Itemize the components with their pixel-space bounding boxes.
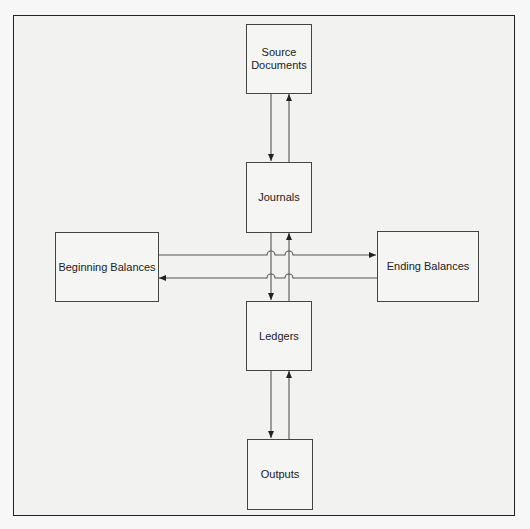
node-source-documents: Source Documents xyxy=(246,24,312,94)
node-label: Ledgers xyxy=(259,330,299,343)
diagram-canvas: Source Documents Journals Beginning Bala… xyxy=(0,0,530,529)
node-ledgers: Ledgers xyxy=(246,301,312,371)
node-label: Beginning Balances xyxy=(58,261,155,274)
node-label: Outputs xyxy=(261,468,300,481)
node-beginning-balances: Beginning Balances xyxy=(55,232,159,302)
node-ending-balances: Ending Balances xyxy=(377,231,479,302)
node-label: Source Documents xyxy=(251,46,307,72)
node-outputs: Outputs xyxy=(247,439,313,510)
node-label: Ending Balances xyxy=(387,260,470,273)
node-label: Journals xyxy=(258,191,300,204)
node-journals: Journals xyxy=(246,162,312,233)
